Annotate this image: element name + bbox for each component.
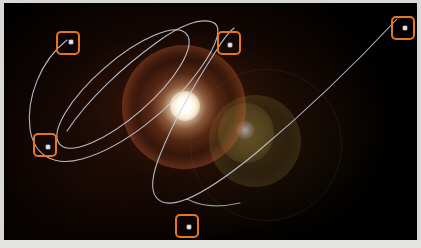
- lens-flare-core-icon: [236, 121, 254, 139]
- lens-flare-outer-icon: [209, 95, 301, 187]
- faint-flare-ring: [190, 69, 342, 221]
- lens-flare-inner-icon: [218, 103, 274, 163]
- orbit-path-outer-tail: [187, 199, 240, 206]
- image-frame: [0, 0, 421, 248]
- annotation-2[interactable]: [217, 31, 241, 55]
- annotation-3[interactable]: [391, 16, 415, 40]
- annotation-1[interactable]: [56, 31, 80, 55]
- annotation-4[interactable]: [33, 133, 57, 157]
- star-halo-ring: [122, 45, 246, 169]
- planet-marker-icon: [46, 145, 51, 150]
- astronomy-image[interactable]: [4, 3, 417, 240]
- planet-marker-icon: [228, 43, 233, 48]
- planet-marker-icon: [187, 225, 192, 230]
- planet-marker-icon: [403, 26, 408, 31]
- star-glow: [132, 55, 236, 159]
- planet-marker-icon: [69, 40, 74, 45]
- orbit-path-outer: [153, 19, 397, 203]
- image-bottom-border: [0, 240, 421, 248]
- screenshot-root: [0, 0, 421, 248]
- annotation-5[interactable]: [175, 214, 199, 238]
- star-core: [170, 91, 200, 121]
